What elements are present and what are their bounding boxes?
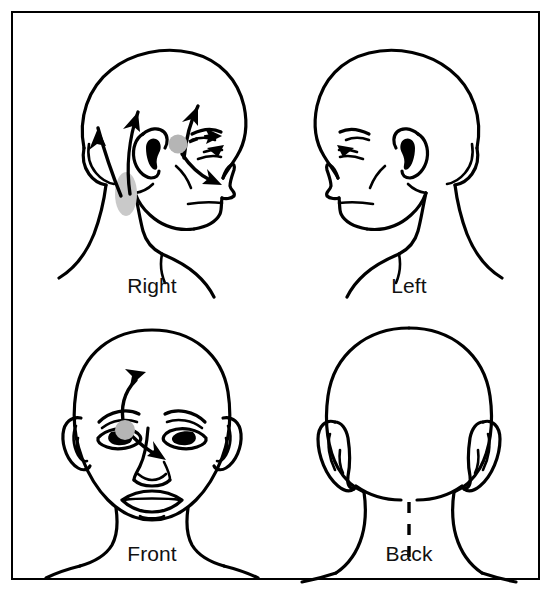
panel-back-view: Back	[278, 310, 540, 592]
panel-label-front: Front	[26, 542, 278, 566]
panel-label-left: Left	[278, 274, 540, 298]
marker-trigger-point-preauricular	[115, 420, 135, 440]
left-view-drawing	[278, 26, 540, 310]
panel-right-view: Right	[26, 26, 278, 310]
right-view-drawing	[26, 26, 278, 310]
figure-frame-border: Right	[11, 11, 540, 580]
panel-label-right: Right	[26, 274, 278, 298]
panel-label-back: Back	[278, 542, 540, 566]
panel-left-view: Left	[278, 26, 540, 310]
panel-front-view: Front	[26, 310, 278, 592]
marker-trigger-point-preauricular	[169, 135, 188, 154]
figure-root: Right	[0, 0, 552, 598]
marker-referral-zone-upper-neck	[115, 172, 137, 216]
